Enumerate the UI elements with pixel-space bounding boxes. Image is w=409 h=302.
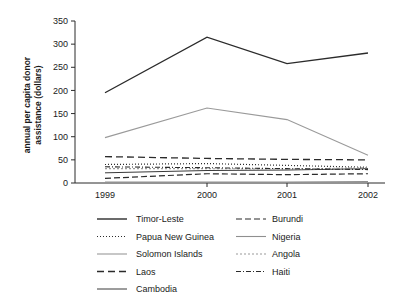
series-line-papua-new-guinea: [105, 164, 368, 168]
legend-label-timor-leste: Timor-Leste: [136, 214, 184, 224]
y-tick-label: 350: [53, 16, 68, 26]
y-tick-label: 50: [58, 155, 68, 165]
legend-label-haiti: Haiti: [272, 267, 290, 277]
y-tick-label: 200: [53, 86, 68, 96]
series-line-timor-leste: [105, 37, 368, 93]
chart-legend: Timor-LestePapua New GuineaSolomon Islan…: [97, 214, 303, 294]
x-tick-label: 2002: [358, 190, 378, 200]
y-axis-title-line1: annual per capita donor: [22, 56, 32, 153]
x-tick-label: 1999: [95, 190, 115, 200]
series-line-burundi: [105, 174, 368, 179]
legend-label-papua-new-guinea: Papua New Guinea: [136, 232, 214, 242]
y-tick-label: 250: [53, 62, 68, 72]
x-tick-label: 2000: [197, 190, 217, 200]
line-chart: annual per capita donor assistance (doll…: [0, 0, 409, 302]
legend-label-cambodia: Cambodia: [136, 284, 177, 294]
series-line-laos: [105, 157, 368, 160]
x-axis-ticks: 1999200020012002: [95, 183, 378, 200]
y-axis-ticks: 050100150200250300350: [53, 16, 75, 188]
y-tick-label: 0: [63, 178, 68, 188]
legend-label-solomon-islands: Solomon Islands: [136, 249, 203, 259]
x-tick-label: 2001: [277, 190, 297, 200]
series-line-haiti: [105, 167, 368, 170]
y-tick-label: 300: [53, 39, 68, 49]
legend-label-angola: Angola: [272, 249, 300, 259]
series-line-solomon-islands: [105, 108, 368, 155]
data-series-group: [105, 37, 368, 182]
y-tick-label: 100: [53, 132, 68, 142]
legend-label-nigeria: Nigeria: [272, 232, 301, 242]
y-axis-title-line2: assistance (dollars): [33, 65, 43, 145]
legend-label-burundi: Burundi: [272, 214, 303, 224]
y-tick-label: 150: [53, 109, 68, 119]
legend-label-laos: Laos: [136, 267, 156, 277]
chart-figure: annual per capita donor assistance (doll…: [0, 0, 409, 302]
y-axis-title: annual per capita donor assistance (doll…: [22, 56, 43, 153]
